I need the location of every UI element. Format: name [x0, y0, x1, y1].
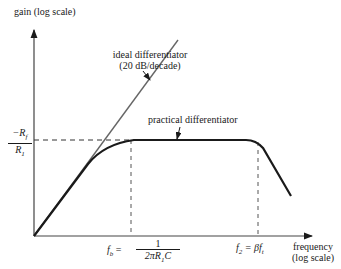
- diagram-canvas: [0, 0, 341, 269]
- fb-denominator: 2πR: [145, 250, 161, 261]
- f2-eq: = βf: [245, 242, 262, 253]
- practical-differentiator-label: practical differentiator: [148, 114, 238, 125]
- gain-numerator: −R: [13, 127, 26, 138]
- fb-label: fb =: [107, 244, 121, 260]
- fb-eq: =: [116, 244, 122, 255]
- f2-sub: 2: [239, 248, 243, 256]
- f2-rhs-sub: t: [262, 248, 264, 256]
- x-axis-label: frequency (log scale): [288, 241, 338, 263]
- x-axis-label-line2: (log scale): [288, 252, 338, 263]
- fb-den-tail: C: [164, 250, 171, 261]
- gain-denominator-sub: 1: [21, 150, 25, 158]
- f2-label: f2 = βft: [236, 242, 264, 258]
- ideal-leader-arrow: [143, 71, 150, 80]
- gain-level-fraction: −Rf R1: [8, 127, 32, 160]
- ideal-differentiator-label: ideal differentiator (20 dB/decade): [100, 49, 200, 71]
- practical-differentiator-curve: [34, 140, 291, 236]
- gain-numerator-sub: f: [25, 133, 27, 141]
- x-axis-label-line1: frequency: [288, 241, 338, 252]
- ideal-label-line1: ideal differentiator: [100, 49, 200, 60]
- y-axis-label: gain (log scale): [14, 6, 76, 17]
- practical-leader-arrow: [177, 127, 180, 139]
- fb-numerator: 1: [155, 238, 162, 249]
- ideal-label-line2: (20 dB/decade): [100, 60, 200, 71]
- fb-fraction: 1 2πR1C: [136, 238, 180, 266]
- fb-sub: b: [110, 250, 114, 258]
